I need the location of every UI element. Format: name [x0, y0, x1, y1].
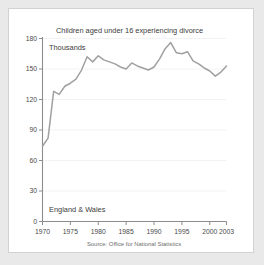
- y-tick-label: 150: [26, 65, 38, 72]
- y-tick-label: 180: [26, 35, 38, 42]
- data-series-line: [43, 43, 227, 147]
- chart-plot-area: 0306090120150180 19701975198019851990199…: [9, 9, 253, 252]
- x-tick-label: 2000: [202, 228, 217, 235]
- chart-title: Children aged under 16 experiencing divo…: [56, 26, 203, 35]
- y-tick-label: 30: [29, 187, 37, 194]
- y-tick-label: 0: [33, 218, 37, 225]
- x-axis-ticks-group: 19701975198019851990199520002003: [35, 222, 234, 236]
- y-tick-label: 60: [29, 157, 37, 164]
- region-annotation-label: England & Wales: [49, 205, 106, 214]
- gridlines-group: [43, 39, 227, 192]
- divorce-line-chart: 0306090120150180 19701975198019851990199…: [9, 9, 255, 254]
- x-tick-label: 1975: [63, 228, 78, 235]
- x-tick-label: 1995: [174, 228, 189, 235]
- y-axis-unit-label: Thousands: [49, 43, 86, 52]
- x-tick-label: 1985: [119, 228, 134, 235]
- x-tick-label: 1980: [91, 228, 106, 235]
- y-tick-label: 90: [29, 126, 37, 133]
- x-tick-label: 1990: [146, 228, 161, 235]
- x-tick-label: 1970: [35, 228, 50, 235]
- chart-figure: 0306090120150180 19701975198019851990199…: [8, 8, 254, 253]
- y-axis-ticks-group: 0306090120150180: [26, 35, 43, 225]
- y-tick-label: 120: [26, 96, 38, 103]
- x-tick-label: 2003: [219, 228, 234, 235]
- source-label: Source: Office for National Statistics: [87, 241, 181, 247]
